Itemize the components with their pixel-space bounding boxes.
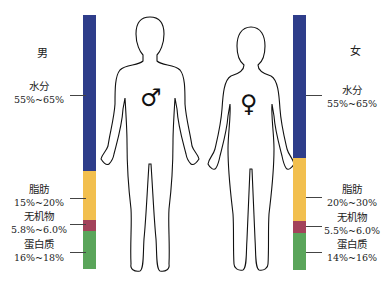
female-water-segment xyxy=(293,15,306,158)
female-fat-label: 脂肪 20%~30% xyxy=(318,183,386,209)
male-minerals-label: 无机物 5.8%~6.0% xyxy=(4,210,74,236)
female-composition-bar xyxy=(293,15,306,270)
male-water-segment xyxy=(83,15,96,171)
female-minerals-label: 无机物 5.5%~6.0% xyxy=(318,211,386,237)
male-protein-label: 蛋白质 16%~18% xyxy=(4,238,74,264)
female-protein-segment xyxy=(293,233,306,270)
male-water-label: 水分 55%~65% xyxy=(4,80,74,106)
male-symbol-icon: ♂ xyxy=(140,86,162,110)
female-title: 女 xyxy=(350,42,361,58)
male-protein-segment xyxy=(83,231,96,269)
male-composition-bar xyxy=(83,15,96,269)
female-symbol-icon: ♀ xyxy=(240,92,258,116)
female-minerals-segment xyxy=(293,221,306,233)
male-body-outline xyxy=(100,14,200,274)
female-fat-segment xyxy=(293,158,306,221)
male-fat-label: 脂肪 15%~20% xyxy=(4,183,74,209)
female-body-outline xyxy=(206,24,296,274)
female-water-label: 水分 55%~65% xyxy=(318,84,386,110)
male-title: 男 xyxy=(37,44,48,60)
male-fat-segment xyxy=(83,171,96,220)
female-protein-label: 蛋白质 14%~16% xyxy=(318,238,386,264)
male-minerals-segment xyxy=(83,220,96,231)
